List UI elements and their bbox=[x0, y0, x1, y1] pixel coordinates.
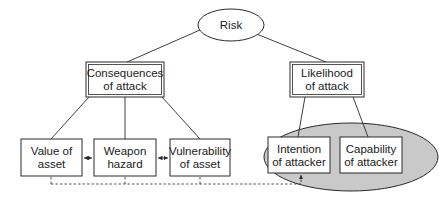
node-consequences: Consequences of attack bbox=[86, 62, 164, 97]
node-value-line1: Value of bbox=[31, 145, 73, 157]
edge-consequences-vulnerability bbox=[162, 97, 200, 139]
node-weapon-line1: Weapon bbox=[104, 145, 147, 157]
node-vulnerability-of-asset: Vulnerability of asset bbox=[169, 139, 231, 176]
edge-consequences-value bbox=[51, 97, 89, 139]
node-likelihood-line2: of attack bbox=[305, 80, 349, 92]
edge-risk-consequences bbox=[127, 30, 200, 62]
node-consequences-line2: of attack bbox=[103, 80, 147, 92]
node-intention-of-attacker: Intention of attacker bbox=[268, 137, 330, 173]
node-intention-line2: of attacker bbox=[272, 156, 326, 168]
edge-risk-likelihood bbox=[254, 33, 326, 62]
node-consequences-line1: Consequences bbox=[87, 67, 164, 79]
node-likelihood: Likelihood of attack bbox=[290, 62, 364, 97]
node-likelihood-line1: Likelihood bbox=[301, 67, 353, 79]
node-weapon-hazard: Weapon hazard bbox=[94, 139, 156, 176]
node-weapon-line2: hazard bbox=[107, 158, 142, 170]
node-capability-of-attacker: Capability of attacker bbox=[340, 137, 402, 173]
node-risk: Risk bbox=[198, 9, 264, 41]
node-vulnerability-line1: Vulnerability bbox=[169, 145, 231, 157]
node-value-of-asset: Value of asset bbox=[21, 139, 82, 176]
node-vulnerability-line2: of asset bbox=[180, 158, 221, 170]
node-risk-label: Risk bbox=[220, 19, 243, 31]
dashed-influence-connector bbox=[51, 177, 301, 184]
node-intention-line1: Intention bbox=[277, 143, 321, 155]
risk-tree-diagram: Risk Consequences of attack Likelihood o… bbox=[0, 0, 439, 199]
node-capability-line1: Capability bbox=[346, 143, 397, 155]
node-capability-line2: of attacker bbox=[344, 156, 398, 168]
node-value-line2: asset bbox=[38, 158, 66, 170]
